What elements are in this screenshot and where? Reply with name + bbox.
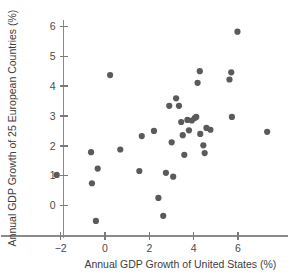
y-tick-label: 0 [50,199,56,211]
data-point [170,174,176,180]
scatter-plot-figure: −202460123456 Annual GDP Growth of Unite… [0,0,296,277]
x-tick-label: 2 [146,242,152,254]
plot-canvas: −202460123456 Annual GDP Growth of Unite… [0,0,296,277]
data-point [202,150,208,156]
data-point [88,149,94,155]
data-point [200,142,206,148]
data-point [89,180,95,186]
data-point [176,103,182,109]
y-tick-label: 6 [50,20,56,32]
data-point [228,69,234,75]
data-point [194,80,200,86]
data-point [193,114,199,120]
tick-labels-group: −202460123456 [50,20,241,254]
x-tick-label: 4 [191,242,197,254]
data-point [226,76,232,82]
y-tick-label: 2 [50,140,56,152]
data-point [136,168,142,174]
x-tick-label: −2 [55,242,67,254]
y-tick-label: 3 [50,110,56,122]
data-point [155,195,161,201]
x-tick-label: 0 [102,242,108,254]
y-axis-title: Annual GDP Growth of 25 European Countri… [6,10,18,247]
data-point [107,72,113,78]
data-point [234,29,240,35]
data-point [181,152,187,158]
data-point [186,127,192,133]
data-point [54,172,60,178]
ticks-group [60,26,238,240]
data-point [178,119,184,125]
y-tick-label: 4 [50,80,56,92]
x-tick-label: 6 [235,242,241,254]
data-point [197,68,203,74]
data-point [166,103,172,109]
x-axis-title: Annual GDP Growth of United States (%) [84,258,276,270]
data-point [93,218,99,224]
data-point [117,146,123,152]
data-point [151,128,157,134]
data-point [169,139,175,145]
data-point [264,129,270,135]
data-point [180,132,186,138]
data-point [163,170,169,176]
data-point [229,114,235,120]
y-tick-label: 5 [50,50,56,62]
data-point [197,131,203,137]
data-point [173,95,179,101]
data-point [139,133,145,139]
axes-group [1,20,288,238]
data-point [207,127,213,133]
data-points-group [54,29,271,224]
data-point [95,166,101,172]
data-point [160,213,166,219]
